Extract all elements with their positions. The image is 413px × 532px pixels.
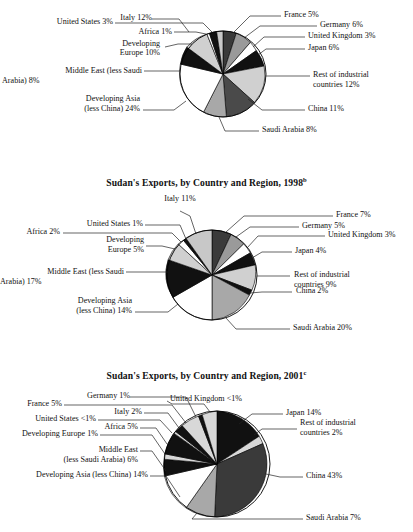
label-united-kingdom: United Kingdom <1% xyxy=(170,394,242,404)
pie-chart-panel-2: Sudan's Exports, by Country and Region, … xyxy=(0,170,413,364)
label-developing-asia-line2: (less China) 24% xyxy=(20,104,140,114)
pie-chart-panel-3: Sudan's Exports, by Country and Region, … xyxy=(0,364,413,532)
label-africa: Africa 2% xyxy=(2,227,60,237)
label-france: France 5% xyxy=(2,399,62,409)
label-developing-europe-line1: Developing xyxy=(58,235,144,245)
label-rest-industrial-line2: countries 12% xyxy=(313,80,360,90)
label-china: China 11% xyxy=(308,104,344,114)
label-united-kingdom: United Kingdom 3% xyxy=(328,230,395,240)
label-middle-east-line2: (less Saudi Arabia) 6% xyxy=(30,455,138,465)
pie-chart-panel-1: Italy 12% France 5% Germany 6% United St… xyxy=(0,0,413,170)
label-united-states: United States 3% xyxy=(5,17,113,27)
label-united-kingdom: United Kingdom 3% xyxy=(308,31,375,41)
label-developing-europe: Developing Europe 1% xyxy=(2,429,98,439)
pie-1-slices xyxy=(179,31,266,117)
label-rest-industrial-line1: Rest of industrial xyxy=(313,70,369,80)
label-middle-east-line1: Middle East xyxy=(40,445,138,455)
label-developing-asia-line1: Developing Asia xyxy=(20,94,140,104)
label-italy: Italy 11% xyxy=(140,194,220,204)
pie-3-slices xyxy=(164,411,270,517)
label-middle-east-line2: Arabia) 8% xyxy=(2,76,40,86)
label-developing-asia-line2: (less China) 14% xyxy=(20,306,132,316)
pie-2-slices xyxy=(166,230,257,320)
label-japan: Japan 6% xyxy=(308,43,339,53)
label-rest-industrial-line1: Rest of industrial xyxy=(294,270,350,280)
label-middle-east-line2: Arabia) 17% xyxy=(0,277,42,287)
label-developing-asia: Developing Asia (less China) 14% xyxy=(2,470,148,480)
label-rest-industrial-line2: countries 2% xyxy=(300,428,342,438)
label-italy: Italy 2% xyxy=(90,407,142,417)
label-china: China 43% xyxy=(306,471,342,481)
label-rest-industrial-line1: Rest of industrial xyxy=(300,418,356,428)
label-japan: Japan 4% xyxy=(295,246,326,256)
label-developing-europe-line2: Europe 5% xyxy=(58,245,144,255)
label-developing-europe-line2: Europe 10% xyxy=(50,48,160,58)
label-africa: Africa 1% xyxy=(112,27,172,37)
label-france: France 7% xyxy=(336,210,371,220)
label-japan: Japan 14% xyxy=(286,408,321,418)
label-saudi-arabia: Saudi Arabia 20% xyxy=(293,323,352,333)
label-germany: Germany 1% xyxy=(60,391,130,401)
label-saudi-arabia: Saudi Arabia 8% xyxy=(262,125,317,135)
label-middle-east-line1: Middle East (less Saudi xyxy=(2,66,142,76)
label-germany: Germany 6% xyxy=(320,20,363,30)
label-china: China 2% xyxy=(296,286,328,296)
label-saudi-arabia: Saudi Arabia 7% xyxy=(306,513,361,523)
label-france: France 5% xyxy=(284,10,319,20)
label-middle-east-line1: Middle East (less Saudi xyxy=(0,267,124,277)
label-developing-asia-line1: Developing Asia xyxy=(20,296,132,306)
